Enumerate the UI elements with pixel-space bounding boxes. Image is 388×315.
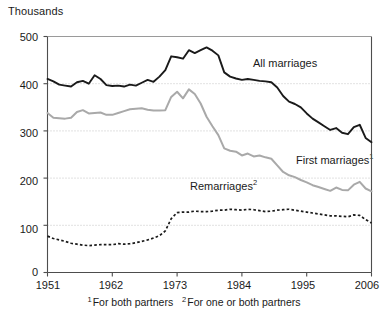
chart-figure: Thousands 500 400 300 200 100 0 1951 196… <box>0 0 388 315</box>
series-line-first-marriages <box>48 89 372 191</box>
chart-plot-area <box>0 0 388 315</box>
axis-frame <box>48 37 372 273</box>
data-series-group <box>48 47 372 245</box>
axis-ticks <box>44 37 372 277</box>
gridlines <box>48 84 372 226</box>
series-line-all-marriages <box>48 47 372 142</box>
series-line-remarriages <box>48 209 372 245</box>
